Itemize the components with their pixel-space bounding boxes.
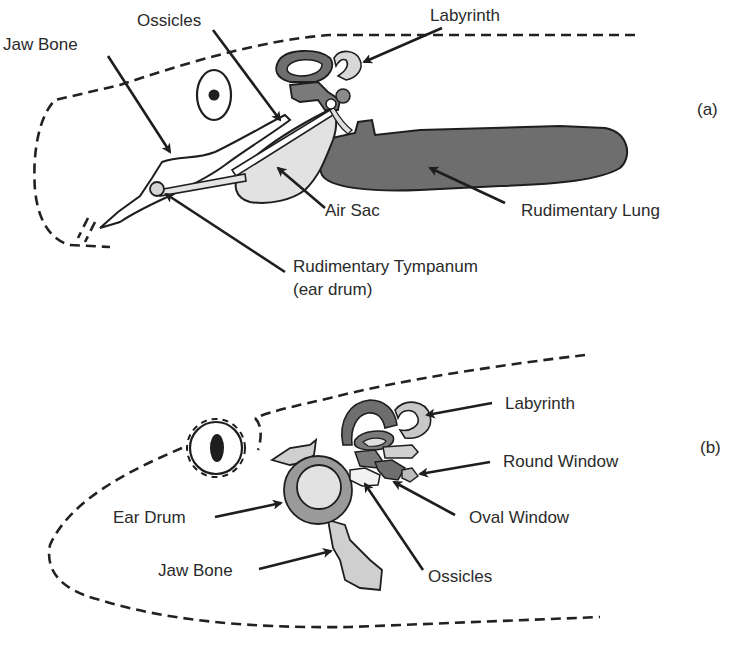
panel-a-label-tympanum: Rudimentary Tympanum bbox=[293, 257, 478, 276]
panel-b-oval-window-arrow bbox=[394, 482, 455, 515]
panel-b-labyrinth-arrow bbox=[427, 403, 492, 415]
panel-b-ear-drum-arrow bbox=[215, 503, 281, 517]
panel-b-label-oval-window: Oval Window bbox=[469, 508, 570, 527]
panel-b-tag-text: (b) bbox=[700, 438, 721, 457]
panel-b-ossicles-arrow bbox=[365, 484, 423, 570]
panel-b-eye-socket-outline bbox=[255, 418, 261, 450]
panel-a-tag: (a) bbox=[697, 100, 718, 119]
panel-a: Jaw Bone Ossicles Labyrinth Air Sac Rudi… bbox=[3, 6, 718, 299]
panel-b-label-round-window: Round Window bbox=[503, 452, 619, 471]
panel-b-jaw-bone-shape bbox=[328, 520, 382, 590]
panel-b-ear-drum-center bbox=[297, 465, 341, 509]
panel-b-round-window-arrow bbox=[420, 462, 490, 474]
panel-b-eye-icon bbox=[187, 419, 245, 477]
panel-b: Labyrinth Round Window Oval Window Ear D… bbox=[49, 355, 721, 627]
panel-b-label-labyrinth: Labyrinth bbox=[505, 394, 575, 413]
panel-a-eye-icon bbox=[197, 70, 231, 120]
panel-a-tympanum-shape bbox=[150, 182, 164, 196]
panel-a-lung-shape bbox=[319, 120, 627, 190]
figure-canvas: Jaw Bone Ossicles Labyrinth Air Sac Rudi… bbox=[0, 0, 733, 655]
panel-a-label-air-sac: Air Sac bbox=[325, 201, 380, 220]
panel-b-label-ossicles: Ossicles bbox=[428, 567, 492, 586]
panel-b-label-jaw-bone: Jaw Bone bbox=[158, 561, 233, 580]
panel-a-label-tympanum-sub: (ear drum) bbox=[293, 280, 372, 299]
panel-a-tympanum-arrow bbox=[166, 194, 285, 272]
panel-b-ossicles-shape bbox=[350, 468, 380, 486]
panel-a-tag-text: (a) bbox=[697, 100, 718, 119]
panel-a-air-sac-shape bbox=[236, 111, 336, 203]
panel-a-label-ossicles: Ossicles bbox=[137, 11, 201, 30]
panel-a-label-labyrinth: Labyrinth bbox=[430, 6, 500, 25]
panel-a-label-jaw-bone: Jaw Bone bbox=[3, 35, 78, 54]
panel-b-tag: (b) bbox=[700, 438, 721, 457]
panel-b-jaw-bone-arrow bbox=[259, 551, 331, 569]
panel-a-label-lung: Rudimentary Lung bbox=[521, 201, 660, 220]
panel-b-label-ear-drum: Ear Drum bbox=[113, 508, 186, 527]
panel-a-snout-gap bbox=[78, 218, 95, 242]
panel-a-jaw-bone-arrow bbox=[108, 56, 170, 152]
panel-a-labyrinth-arrow bbox=[364, 28, 442, 62]
